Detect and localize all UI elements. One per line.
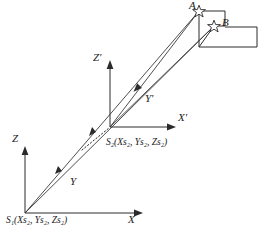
station-1-label: S₁(Xs₂, Ys₂, Zs₂) (6, 216, 67, 226)
station-2-label: S₂(Xs₂, Ys₂, Zs₂) (106, 138, 167, 148)
diagram-vector-layer (0, 0, 261, 235)
x-prime-axis-label: X' (178, 112, 187, 123)
axis-arrowhead-x-prime (167, 124, 176, 131)
z-prime-axis-label: Z' (93, 52, 101, 63)
ray-group-s2 (110, 11, 214, 127)
y-prime-axis-label: Y' (145, 93, 153, 104)
coordinate-system-s1 (25, 152, 137, 213)
axis-arrowhead-z (22, 146, 29, 155)
diagram-canvas: A B Z' Y' X' S₂(Xs₂, Ys₂, Zs₂) Z Y X S₁(… (0, 0, 261, 235)
target-markers (193, 5, 221, 32)
target-b-label: B (222, 17, 229, 28)
axis-arrowhead-z-prime (107, 60, 114, 69)
z-axis-label: Z (12, 133, 18, 144)
ray-arrowhead-s1-lower (55, 166, 62, 174)
ray-s1-to-a (25, 11, 199, 213)
x-axis-label: X (128, 214, 135, 225)
target-a-label: A (189, 0, 196, 11)
y-axis-label: Y (70, 176, 76, 187)
ray-s2-to-b (110, 26, 214, 127)
ray-arrow-group-s1 (55, 127, 96, 174)
ray-s2-to-a (110, 11, 199, 127)
axis-arrowhead-x (134, 210, 143, 217)
